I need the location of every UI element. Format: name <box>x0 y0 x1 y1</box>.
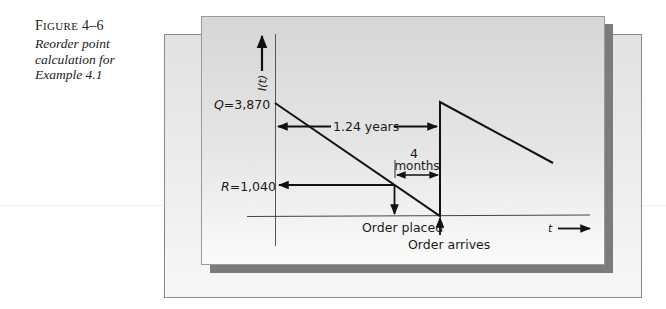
q-level-label: Q=3,870 <box>214 97 270 112</box>
lead-time-unit: months <box>394 159 439 173</box>
reorder-point-figure: I(t) t Q=3,870 R=1,040 1.24 years 4 mont… <box>0 0 666 309</box>
order-arrives-label: Order arrives <box>408 237 490 252</box>
order-placed-label: Order placed <box>362 220 443 235</box>
y-axis-label: I(t) <box>256 75 269 91</box>
cycle-length-label: 1.24 years <box>333 119 399 134</box>
r-level-label: R=1,040 <box>221 179 276 194</box>
x-axis-label: t <box>548 222 553 235</box>
